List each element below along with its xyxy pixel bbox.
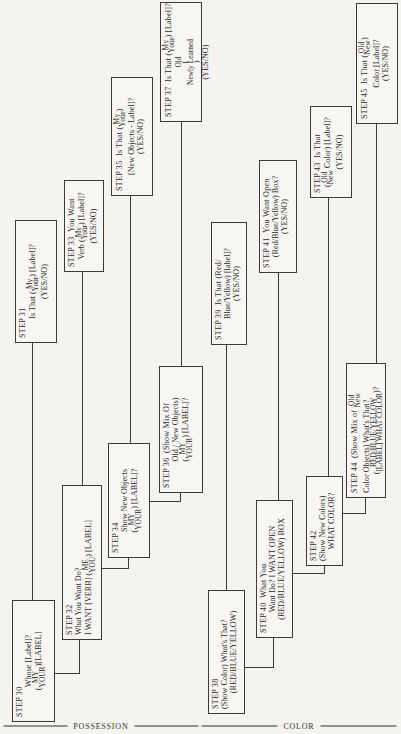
connector-s30-s32-h [79, 640, 80, 674]
step-30-box: STEP 30 Whose [Label]? (MYYOUR)[LABEL] [12, 600, 55, 722]
connector-s36-s37 [181, 122, 182, 366]
question: (Show Color) What's That? [220, 595, 229, 709]
connector-s32-s34 [102, 568, 128, 569]
section-color: COLOR [202, 721, 397, 733]
step-33-box: STEP 33 You Want Verb (MyYour) [Label]? … [64, 180, 104, 272]
step-label: STEP 44 (Show Mix of OldNew [349, 368, 362, 493]
step-label: STEP 33 You Want [67, 185, 76, 267]
answer: (RED/BLUE/YELLOW) [229, 595, 238, 709]
yes-no: (YES/NO) [201, 7, 210, 117]
step-31-box: STEP 31 Is That (MyYour) [Label]? (YES/N… [15, 220, 57, 343]
step-label: STEP 41 You Want Open [262, 165, 271, 268]
yes-no: (YES/NO) [280, 165, 289, 268]
section-label: POSSESSION [73, 722, 128, 731]
divider [135, 726, 199, 727]
step-44-box: STEP 44 (Show Mix of OldNew Color Object… [346, 363, 386, 498]
step-label: STEP 38 [211, 595, 220, 709]
connector-s30-s32 [55, 673, 79, 674]
step-label: STEP 30 [15, 605, 24, 717]
question: Want Do? I WANT OPEN [268, 505, 277, 633]
question: Old(Newly Learned) [176, 7, 201, 117]
yes-no: (YES/NO) [335, 111, 344, 193]
step-38-box: STEP 38 (Show Color) What's That? (RED/B… [208, 590, 245, 714]
question: Whose [Label]? [24, 605, 33, 717]
flowchart-canvas: STEP 30 Whose [Label]? (MYYOUR)[LABEL] S… [0, 0, 401, 734]
section-label: COLOR [283, 722, 314, 731]
connector-s32-s34-h [128, 558, 129, 569]
connector-s44-s45 [376, 124, 377, 363]
question: Old / New Objects) [171, 371, 180, 488]
step-34-box: STEP 34 Show New Objects (MYYOUR) [LABEL… [108, 443, 150, 558]
connector-s38-s40 [245, 667, 273, 668]
step-35-box: STEP 35 Is That (MyYour) [New Objects - … [111, 77, 153, 196]
step-label: STEP 36 (Show Mix Of [162, 371, 171, 488]
step-label: STEP 39 Is That (Red/ [214, 227, 223, 340]
connector-s40-s42-h [324, 566, 325, 574]
answer: (MYYOUR) [LABEL]? [180, 371, 193, 488]
yes-no: (YES/NO) [232, 227, 241, 340]
connector-s38-s39 [226, 345, 227, 590]
step-39-box: STEP 39 Is That (Red/ Blue/Yellow) [labe… [211, 222, 247, 345]
connector-s42-s43 [328, 198, 329, 476]
question: (Red/Blue/Yellow) Box? [271, 165, 280, 268]
step-45-box: STEP 45 Is That (OldNew) Color [Label]? … [356, 3, 398, 124]
answer: I WANT [VERB] (MEYOU) [LABEL] [83, 490, 96, 635]
divider [202, 726, 278, 727]
question: Is That (MyYour) [Label]? [27, 225, 40, 338]
step-label: STEP 32 [65, 490, 74, 635]
yes-no: (YES/NO) [136, 82, 145, 191]
step-label: STEP 45 Is That (OldNew) [359, 8, 372, 119]
yes-no: (YES/NO) [40, 225, 49, 338]
question: Show New Objects [120, 448, 129, 553]
connector-s34-s35 [130, 196, 131, 443]
answer: (MYYOUR) [LABEL]? [129, 448, 142, 553]
step-label: STEP 40 What You [259, 505, 268, 633]
connector-s34-s36-h [180, 493, 181, 502]
divider [3, 726, 67, 727]
divider [321, 726, 397, 727]
answer: WHAT COLOR? [327, 481, 336, 561]
answer: (MYYOUR)[LABEL] [33, 605, 46, 717]
connector-s40-s41 [278, 273, 279, 500]
step-36-box: STEP 36 (Show Mix Of Old / New Objects) … [159, 366, 203, 493]
connector-s30-s31 [32, 343, 33, 600]
yes-no: (YES/NO) [89, 185, 98, 267]
connector-s40-s42 [293, 573, 324, 574]
connector-s42-s44 [343, 513, 365, 514]
question: Verb (MyYour) [Label]? [76, 185, 89, 267]
question: Color [Label]? [372, 8, 381, 119]
yes-no: (YES/NO) [381, 8, 390, 119]
answer: (RED/BLUE/YELLOW[LABEL] WHAT COLOR)? [371, 368, 384, 493]
step-43-box: STEP 43 Is That (OldNew Color) [Label]? … [310, 106, 352, 198]
question: (Show New Colors) [318, 481, 327, 561]
connector-s34-s36 [150, 501, 180, 502]
step-41-box: STEP 41 You Want Open (Red/Blue/Yellow) … [259, 160, 297, 273]
step-label: STEP 34 [111, 448, 120, 553]
section-possession: POSSESSION [4, 721, 199, 733]
question: Blue/Yellow) [label]? [223, 227, 232, 340]
connector-s32-s33 [82, 272, 83, 485]
step-32-box: STEP 32 What You Want Do? I WANT [VERB] … [62, 485, 102, 640]
step-37-box: STEP 37 Is That (MyYour) [Label]? Old(Ne… [160, 2, 202, 122]
question: (OldNew Color) [Label]? [322, 111, 335, 193]
step-label: STEP 35 Is That (MyYour) [114, 82, 127, 191]
question: [New Objects - Label]? [127, 82, 136, 191]
answer: (RED/BLUE/YELLOW) BOX [277, 505, 286, 633]
step-label: STEP 42 [309, 481, 318, 561]
step-40-box: STEP 40 What You Want Do? I WANT OPEN (R… [256, 500, 293, 638]
connector-s42-s44-h [365, 498, 366, 514]
step-42-box: STEP 42 (Show New Colors) WHAT COLOR? [306, 476, 343, 566]
connector-s38-s40-h [273, 638, 274, 668]
